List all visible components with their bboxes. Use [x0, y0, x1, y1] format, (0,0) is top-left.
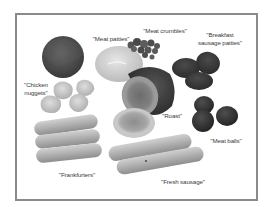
fresh-sausage [107, 133, 204, 176]
breakfast-sausage-patties [172, 49, 223, 90]
chicken-nuggets [41, 80, 95, 113]
label-chicken-line2: nuggets" [24, 89, 47, 96]
meat-balls [192, 96, 238, 132]
label-breakfast-line2: sausage patties" [198, 39, 242, 46]
label-meat-patties: "Meat patties" [93, 35, 130, 42]
dark-meat-patty [42, 36, 84, 78]
label-chicken-line1: "Chicken [24, 81, 48, 88]
roast-slice [113, 108, 155, 138]
label-meat-crumbles: "Meat crumbles" [143, 27, 186, 34]
label-breakfast-line1: "Breakfast [206, 31, 233, 38]
label-meat-balls: "Meat balls" [210, 137, 241, 144]
meat-analog-products-figure: "Meat patties" "Meat crumbles" "Breakfas… [0, 0, 265, 207]
label-roast: "Roast" [162, 112, 182, 119]
label-frankfurters: "Frankfurters" [59, 171, 95, 178]
frankfurters [33, 114, 102, 164]
label-fresh-sausage: "Fresh sausage" [161, 178, 205, 185]
